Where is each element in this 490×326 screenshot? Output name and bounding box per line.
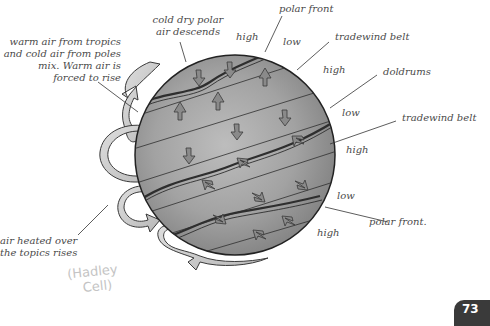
- page-number-badge: 73: [454, 300, 490, 326]
- pressure-label-low-2: low: [342, 107, 360, 119]
- pressure-label-high-2: high: [323, 64, 345, 76]
- label-doldrums: doldrums: [383, 66, 431, 78]
- pressure-label-high-3: high: [346, 144, 368, 156]
- pressure-label-high-4: high: [317, 227, 339, 239]
- label-warm-air-mix: warm air from tropics and cold air from …: [0, 36, 121, 84]
- label-line: forced to rise: [0, 72, 121, 84]
- label-line: air heated over: [0, 235, 77, 247]
- pressure-label-low-1: low: [283, 36, 301, 48]
- handwritten-note: (Hadley Cell): [67, 261, 120, 296]
- label-line: cold dry polar: [140, 14, 236, 26]
- label-polar-front-top: polar front: [279, 3, 334, 15]
- label-line: mix. Warm air is: [0, 60, 121, 72]
- label-cold-dry-polar: cold dry polar air descends: [140, 14, 236, 38]
- label-polar-front-bottom: polar front.: [369, 216, 427, 228]
- label-tradewind-belt-bottom: tradewind belt: [402, 112, 476, 124]
- label-air-heated: air heated over the topics rises: [0, 235, 77, 259]
- label-line: and cold air from poles: [0, 48, 121, 60]
- pressure-label-low-3: low: [337, 190, 355, 202]
- label-line: the topics rises: [0, 247, 77, 259]
- label-tradewind-belt-top: tradewind belt: [335, 31, 409, 43]
- pressure-label-high-1: high: [236, 31, 258, 43]
- label-line: air descends: [140, 26, 236, 38]
- label-line: warm air from tropics: [0, 36, 121, 48]
